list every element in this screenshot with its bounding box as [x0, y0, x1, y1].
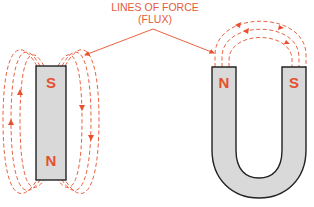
horseshoe-left-pole: N — [219, 74, 230, 91]
magnet-flux-diagram: LINES OF FORCE (FLUX) S N — [0, 0, 314, 207]
bar-bottom-pole: N — [46, 152, 57, 169]
diagram-svg: S N N S — [0, 0, 314, 207]
horseshoe-flux-lines — [215, 21, 306, 67]
pointer-lines — [85, 29, 214, 55]
bar-top-pole: S — [46, 74, 56, 91]
horseshoe-right-pole: S — [289, 74, 299, 91]
